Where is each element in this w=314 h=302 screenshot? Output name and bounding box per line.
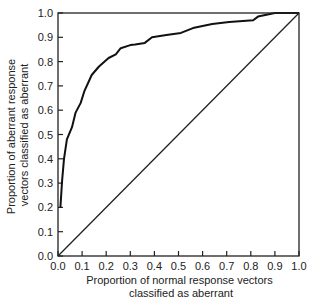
x-tick-label: 0.5	[171, 260, 186, 272]
y-tick-label: 0.6	[38, 104, 53, 116]
x-tick-label: 0.8	[243, 260, 258, 272]
y-tick-label: 0.2	[38, 201, 53, 213]
x-tick-label: 0.0	[50, 260, 65, 272]
y-tick-label: 0.3	[38, 177, 53, 189]
y-tick-label: 0.5	[38, 129, 53, 141]
x-tick-label: 0.4	[147, 260, 162, 272]
y-tick-label: 1.0	[38, 7, 53, 19]
x-axis-title-line-2: classified as aberrant	[129, 287, 233, 299]
y-tick-label: 0.4	[38, 153, 53, 165]
chance-diagonal-line	[58, 13, 299, 256]
y-tick-label: 0.9	[38, 31, 53, 43]
y-axis-title-line-1: Proportion of aberrant response	[5, 59, 17, 214]
roc-curve-line	[60, 13, 299, 207]
x-tick-label: 0.7	[219, 260, 234, 272]
roc-chart: 0.00.10.20.30.40.50.60.70.80.91.0 0.00.1…	[0, 0, 314, 302]
y-axis-title-line-2: vectors classified as aberrant	[18, 64, 30, 206]
y-tick-label: 0.8	[38, 56, 53, 68]
x-tick-label: 0.3	[123, 260, 138, 272]
y-tick-label: 0.7	[38, 80, 53, 92]
y-axis-ticks: 0.00.10.20.30.40.50.60.70.80.91.0	[38, 7, 63, 262]
x-tick-label: 1.0	[291, 260, 306, 272]
y-axis-title: Proportion of aberrant response vectors …	[5, 56, 30, 214]
x-tick-label: 0.2	[99, 260, 114, 272]
x-axis-title: Proportion of normal response vectors cl…	[86, 274, 276, 299]
y-tick-label: 0.1	[38, 226, 53, 238]
x-tick-label: 0.9	[267, 260, 282, 272]
x-axis-ticks: 0.00.10.20.30.40.50.60.70.80.91.0	[50, 251, 306, 272]
x-axis-title-line-1: Proportion of normal response vectors	[86, 274, 273, 286]
x-tick-label: 0.6	[195, 260, 210, 272]
x-tick-label: 0.1	[74, 260, 89, 272]
